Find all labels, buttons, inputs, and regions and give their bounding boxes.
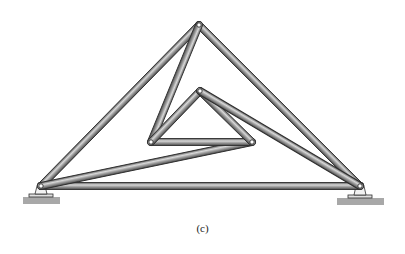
base-plate	[348, 195, 372, 198]
member-D-E	[146, 86, 205, 147]
member-B-D	[146, 20, 203, 146]
pin-left-support	[39, 184, 43, 188]
member-A-B	[36, 20, 204, 191]
pin-inner-apex	[198, 89, 202, 93]
truss-diagram	[0, 0, 405, 254]
pins	[39, 23, 362, 188]
figure-caption: (c)	[0, 222, 405, 234]
pin-inner-left	[149, 140, 153, 144]
pin-right-support	[358, 184, 362, 188]
members	[36, 20, 365, 191]
pin-inner-right	[250, 140, 254, 144]
base-plate	[29, 194, 53, 197]
ground-block	[337, 198, 384, 205]
member-D-F	[148, 139, 256, 146]
member-A-C	[38, 183, 364, 190]
pin-top-apex	[197, 23, 201, 27]
ground-block	[23, 197, 60, 204]
